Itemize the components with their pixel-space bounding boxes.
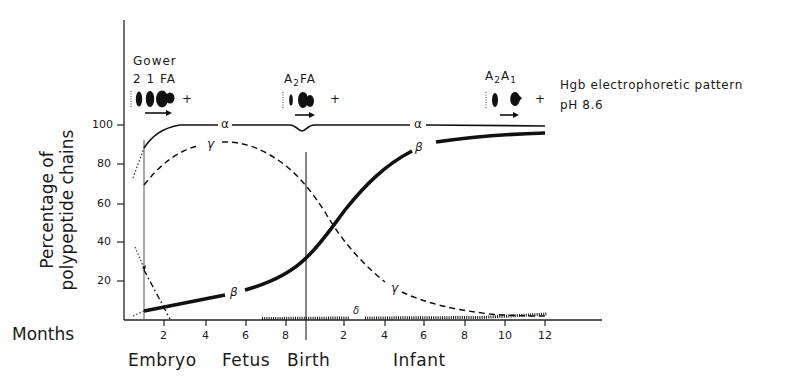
gamma-curve bbox=[144, 142, 545, 316]
era-infant: Infant bbox=[393, 350, 446, 370]
infant-plus-sign: + bbox=[535, 92, 546, 106]
x-tick-prenatal-4: 4 bbox=[202, 329, 209, 342]
birth-pattern-fa: FA bbox=[300, 72, 316, 86]
x-tick-postnatal-12: 12 bbox=[538, 329, 552, 342]
x-axis-months-label: Months bbox=[12, 324, 74, 344]
x-tick-prenatal-8: 8 bbox=[282, 329, 289, 342]
y-ticks bbox=[117, 125, 124, 281]
beta-label-1: β bbox=[230, 285, 238, 299]
birth-pattern-a: A bbox=[284, 72, 293, 86]
era-birth: Birth bbox=[287, 350, 330, 370]
infant-pattern-label: A2A1 bbox=[485, 69, 517, 85]
gamma-label-1: γ bbox=[207, 137, 214, 151]
alpha-label-1: α bbox=[221, 117, 229, 131]
y-tick-60: 60 bbox=[97, 197, 111, 210]
birth-plus-sign: + bbox=[330, 92, 341, 106]
alpha-prenatal-extension bbox=[133, 148, 144, 178]
beta-label-2: β bbox=[415, 140, 423, 154]
infant-electrophoresis-pattern bbox=[486, 92, 522, 118]
y-tick-80: 80 bbox=[97, 157, 111, 170]
gower-electrophoresis-pattern bbox=[131, 91, 175, 117]
x-ticks bbox=[164, 320, 545, 326]
y-tick-40: 40 bbox=[97, 235, 111, 248]
x-tick-postnatal-8: 8 bbox=[461, 329, 468, 342]
gower-label-line2: 2 1 FA bbox=[133, 72, 176, 86]
x-tick-postnatal-10: 10 bbox=[498, 329, 512, 342]
gower-plus-sign: + bbox=[182, 92, 193, 106]
infant-pattern-a2: A bbox=[485, 69, 494, 83]
legend-line2: pH 8.6 bbox=[560, 98, 603, 112]
birth-electrophoresis-pattern bbox=[283, 92, 315, 118]
y-tick-20: 20 bbox=[97, 274, 111, 287]
legend-line1: Hgb electrophoretic pattern bbox=[560, 78, 743, 92]
birth-pattern-label: A2FA bbox=[284, 72, 316, 88]
beta-prenatal-extension bbox=[133, 311, 144, 316]
beta-curve bbox=[144, 133, 545, 311]
infant-pattern-sub2: 2 bbox=[494, 75, 501, 85]
y-axis-label-line2: polypeptide chains bbox=[57, 95, 77, 325]
embryonic-prenatal-extension bbox=[135, 247, 144, 268]
infant-pattern-sub1: 1 bbox=[510, 75, 517, 85]
y-tick-100: 100 bbox=[92, 118, 113, 131]
y-axis-label-line1: Percentage of bbox=[37, 95, 57, 325]
x-tick-prenatal-2: 2 bbox=[160, 329, 167, 342]
gamma-label-2: γ bbox=[391, 281, 398, 295]
gower-label-line1: Gower bbox=[133, 54, 177, 68]
infant-pattern-a1: A bbox=[501, 69, 510, 83]
alpha-label-2: α bbox=[414, 117, 422, 131]
x-tick-postnatal-6: 6 bbox=[420, 329, 427, 342]
era-embryo: Embryo bbox=[128, 350, 197, 370]
birth-pattern-sub: 2 bbox=[293, 78, 300, 88]
x-tick-postnatal-2: 2 bbox=[340, 329, 347, 342]
y-axis-label: Percentage of polypeptide chains bbox=[37, 95, 77, 325]
chart-plot-area bbox=[0, 0, 792, 383]
delta-label: δ bbox=[353, 305, 359, 316]
era-fetus: Fetus bbox=[222, 350, 270, 370]
x-tick-postnatal-4: 4 bbox=[381, 329, 388, 342]
x-tick-prenatal-6: 6 bbox=[242, 329, 249, 342]
